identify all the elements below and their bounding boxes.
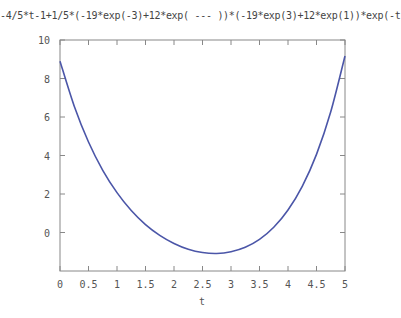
axis-ticks: [60, 40, 345, 271]
x-tick-label: 3.5: [250, 279, 268, 290]
x-tick-label: 4.5: [307, 279, 325, 290]
axes-frame: [60, 40, 345, 271]
x-tick-label: 4: [285, 279, 291, 290]
x-axis-label: t: [199, 296, 205, 307]
y-tick-label: 6: [44, 112, 50, 123]
x-tick-label: 0.5: [79, 279, 97, 290]
y-tick-label: 2: [44, 189, 50, 200]
y-tick-label: 10: [38, 35, 50, 46]
tick-labels: 00.511.522.533.544.550246810: [38, 35, 348, 290]
y-tick-label: 8: [44, 74, 50, 85]
x-tick-label: 0: [57, 279, 63, 290]
x-tick-label: 3: [228, 279, 234, 290]
plot-area: 00.511.522.533.544.550246810 t: [0, 0, 401, 318]
x-tick-label: 1: [114, 279, 120, 290]
y-tick-label: 0: [44, 228, 50, 239]
x-tick-label: 2.5: [193, 279, 211, 290]
x-tick-label: 5: [342, 279, 348, 290]
x-tick-label: 2: [171, 279, 177, 290]
y-tick-label: 4: [44, 151, 50, 162]
data-line: [60, 56, 345, 254]
x-tick-label: 1.5: [136, 279, 154, 290]
